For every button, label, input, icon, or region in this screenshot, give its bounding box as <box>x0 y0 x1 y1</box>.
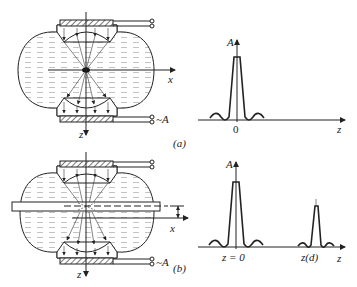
x-axis-label: x <box>167 73 173 85</box>
terminal-icon <box>150 165 154 169</box>
terminal-label: ~A <box>156 113 169 125</box>
terminal-icon <box>150 262 154 266</box>
panel-b-transducer-diagram: x z ~A (b) <box>12 152 188 280</box>
tick-label-zero: 0 <box>233 123 239 135</box>
tick-label-z0: z = 0 <box>221 251 245 263</box>
panel-label-b: (b) <box>173 262 186 275</box>
z-axis-label: z <box>78 128 84 140</box>
terminal-icon <box>150 24 154 28</box>
tick-label-zd: z(d) <box>300 251 318 264</box>
z-axis-label: z <box>76 268 82 280</box>
terminal-label: ~A <box>156 256 169 268</box>
plot-x-label: z <box>336 252 342 264</box>
plot-y-label: A <box>225 158 233 170</box>
plot-y-label: A <box>226 36 234 48</box>
plot-x-label: z <box>336 123 342 135</box>
terminal-icon <box>150 120 154 124</box>
figure: x z ~A (a) A 0 z <box>0 0 357 287</box>
signal-peak-echo-b <box>298 206 334 247</box>
terminal-icon <box>150 160 154 164</box>
panel-b-amplitude-plot: A z = 0 z(d) z <box>198 158 345 264</box>
terminal-icon <box>150 257 154 261</box>
panel-label-a: (a) <box>173 137 186 150</box>
x-axis-label: x <box>169 222 175 234</box>
panel-a-transducer-diagram: x z ~A (a) <box>18 12 186 150</box>
terminal-icon <box>150 19 154 23</box>
panel-a-amplitude-plot: A 0 z <box>198 36 345 135</box>
terminal-icon <box>150 115 154 119</box>
